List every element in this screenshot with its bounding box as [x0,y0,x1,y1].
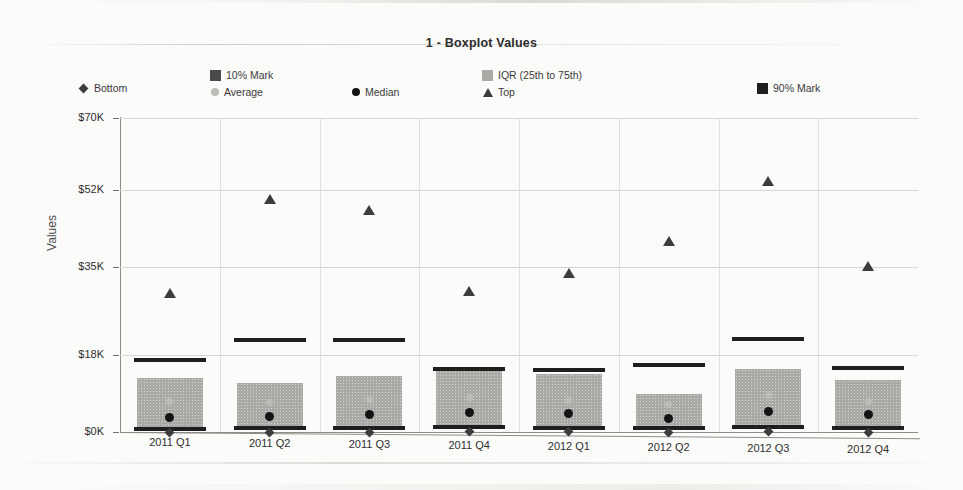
y-tick-mark [113,432,119,433]
y-axis-tick-label: $0K [52,425,104,437]
boxplot-group-2012-q4[interactable]: 2012 Q4 [818,118,918,432]
legend-item-iqr-25th-to-75th[interactable]: IQR (25th to 75th) [482,70,582,81]
triangle-icon [483,88,493,97]
page-edge-top [0,0,963,3]
scan-artifact-bottom [0,462,963,464]
chart-legend: Bottom10% MarkAverageMedianIQR (25th to … [0,66,963,100]
x-axis-category-label: 2012 Q3 [719,442,819,454]
legend-label: 90% Mark [773,83,820,94]
ninety-percent-mark-bar [234,338,306,342]
diamond-icon [79,83,89,93]
page-edge-bottom [0,484,963,490]
square-icon [482,70,493,81]
median-marker [365,410,374,419]
plot-area: $70K$52K$35K$18K$0K2011 Q12011 Q22011 Q3… [120,118,918,432]
top-marker [563,268,575,278]
x-axis-category-label: 2012 Q4 [818,443,918,455]
boxplot-group-2011-q2[interactable]: 2011 Q2 [220,118,320,432]
top-marker [164,288,176,298]
legend-label: Top [498,87,515,98]
legend-label: IQR (25th to 75th) [498,70,582,81]
y-axis-tick-label: $52K [52,183,104,195]
y-axis-tick-label: $35K [52,260,104,272]
legend-item-top[interactable]: Top [483,87,515,98]
legend-item-bottom[interactable]: Bottom [78,83,127,94]
average-marker [665,401,672,408]
legend-label: Bottom [94,83,127,94]
x-axis-category-label: 2011 Q2 [220,437,320,449]
boxplot-group-2012-q3[interactable]: 2012 Q3 [719,118,819,432]
ninety-percent-mark-bar [533,368,605,372]
top-marker [862,261,874,271]
chart-title: 1 - Boxplot Values [0,36,963,50]
top-marker [264,194,276,204]
gridline [120,432,918,433]
square-icon [210,70,221,81]
boxplot-group-2011-q4[interactable]: 2011 Q4 [419,118,519,432]
circle-icon [211,88,219,96]
legend-label: 10% Mark [226,70,273,81]
ninety-percent-mark-bar [732,337,804,341]
y-tick-mark [113,355,119,356]
y-tick-mark [113,267,119,268]
legend-label: Average [224,87,263,98]
y-axis-tick-label: $18K [52,348,104,360]
top-marker [762,176,774,186]
ninety-percent-mark-bar [134,358,206,362]
top-marker [663,236,675,246]
boxplot-group-2011-q3[interactable]: 2011 Q3 [320,118,420,432]
legend-item-average[interactable]: Average [211,87,263,98]
y-axis-tick-label: $70K [52,111,104,123]
legend-item-90-mark[interactable]: 90% Mark [757,83,820,94]
circle-icon [352,88,360,96]
ninety-percent-mark-bar [433,367,505,371]
legend-label: Median [365,87,399,98]
average-marker [366,396,373,403]
boxplot-group-2012-q1[interactable]: 2012 Q1 [519,118,619,432]
x-axis-category-label: 2011 Q3 [320,438,420,450]
legend-item-10-mark[interactable]: 10% Mark [210,70,273,81]
ninety-percent-mark-bar [832,366,904,370]
legend-item-median[interactable]: Median [352,87,399,98]
boxplot-group-2012-q2[interactable]: 2012 Q2 [619,118,719,432]
y-axis-title: Values [45,215,59,251]
top-marker [363,205,375,215]
y-tick-mark [113,190,119,191]
average-marker [865,398,872,405]
x-axis-category-label: 2011 Q4 [419,439,519,451]
square-icon [757,83,768,94]
median-marker [465,408,474,417]
x-axis-category-label: 2012 Q2 [619,441,719,453]
x-axis-category-label: 2011 Q1 [120,436,220,448]
y-tick-mark [113,118,119,119]
top-marker [463,286,475,296]
ninety-percent-mark-bar [333,338,405,342]
boxplot-group-2011-q1[interactable]: 2011 Q1 [120,118,220,432]
ninety-percent-mark-bar [633,363,705,367]
average-marker [765,392,772,399]
x-axis-category-label: 2012 Q1 [519,440,619,452]
